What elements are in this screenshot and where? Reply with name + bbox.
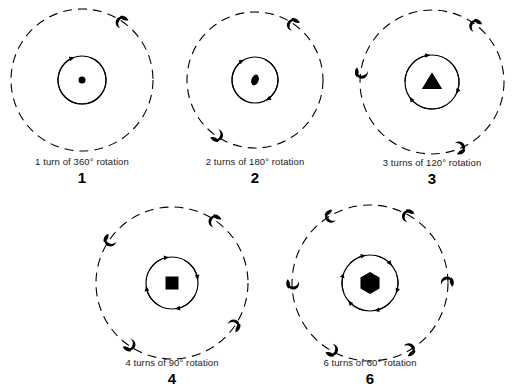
rotation-arrow-icon: [374, 303, 389, 312]
rotation-figure-4: [70, 181, 274, 385]
center-shape-square: [166, 277, 179, 290]
center-shape-ellipse: [250, 74, 261, 87]
figure-caption: 6 turns of 60° rotation: [250, 357, 490, 368]
rotation-arrow-icon: [396, 276, 400, 293]
figure-caption: 3 turns of 120° rotation: [312, 157, 521, 168]
rotation-marker-comma-icon: [286, 279, 299, 289]
rotation-figure-6: [266, 179, 474, 387]
center-shape-dot: [79, 77, 86, 84]
center-shape-hexagon: [360, 272, 379, 294]
figure-number: 6: [310, 371, 430, 387]
figure-number: 4: [112, 371, 232, 387]
rotation-arrow-icon: [149, 256, 169, 271]
rotation-marker-comma-icon: [206, 212, 222, 228]
rotation-arrow-icon: [265, 59, 278, 100]
rotation-arrow-icon: [348, 301, 363, 310]
rotation-marker-comma-icon: [467, 17, 483, 33]
rotation-marker-comma-icon: [210, 128, 226, 144]
rotation-marker-comma-icon: [354, 67, 368, 79]
rotation-arrow-icon: [184, 260, 199, 280]
rotation-figure-3: [334, 0, 521, 180]
center-shape-triangle: [422, 72, 442, 89]
rotation-arrow-icon: [446, 59, 461, 94]
rotation-arrow-icon: [175, 295, 195, 310]
rotation-arrow-icon: [405, 53, 430, 82]
rotation-arrow-icon: [232, 60, 245, 101]
rotation-marker-comma-icon: [226, 317, 242, 333]
rotation-marker-comma-icon: [453, 140, 467, 156]
rotation-marker-comma-icon: [113, 13, 129, 29]
rotation-marker-comma-icon: [441, 276, 454, 286]
rotation-arrow-icon: [350, 254, 365, 263]
rotation-arrow-icon: [377, 256, 392, 265]
rotation-marker-comma-icon: [402, 341, 417, 357]
rotation-marker-comma-icon: [122, 337, 138, 353]
rotation-marker-comma-icon: [322, 209, 337, 225]
rotation-marker-comma-icon: [400, 207, 415, 223]
rotation-arrow-icon: [340, 273, 344, 290]
rotation-figure-1: [0, 0, 179, 177]
rotation-figure-2: [161, 0, 349, 174]
rotation-marker-comma-icon: [101, 233, 117, 249]
rotation-arrow-icon: [145, 286, 160, 306]
diagram-canvas: 1 turn of 360° rotation12 turns of 180° …: [0, 0, 521, 388]
rotation-marker-comma-icon: [285, 16, 301, 32]
